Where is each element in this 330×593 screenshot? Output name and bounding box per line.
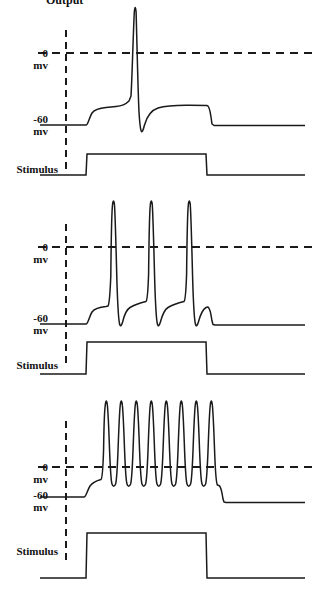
panel-3-plot bbox=[0, 393, 330, 593]
label-zero-mv: 0 mv bbox=[2, 241, 48, 265]
label-stimulus: Stimulus bbox=[0, 545, 58, 557]
label-zero-mv: 0 mv bbox=[2, 461, 48, 485]
stimulus-trace bbox=[40, 154, 305, 175]
label-minus-sixty-mv: -60 mv bbox=[2, 312, 48, 336]
stimulus-trace bbox=[40, 533, 305, 578]
membrane-potential-trace bbox=[40, 401, 305, 503]
panel-moderate-stimulus: 0 mv -60 mv Stimulus bbox=[0, 196, 330, 393]
stimulus-trace bbox=[40, 342, 305, 374]
membrane-potential-trace bbox=[40, 201, 305, 326]
label-zero-mv: 0 mv bbox=[2, 47, 48, 71]
label-stimulus: Stimulus bbox=[0, 163, 58, 175]
neuron-firing-figure: Output 0 mv -60 mv Stimulus 0 mv -60 mv … bbox=[0, 0, 330, 593]
membrane-potential-trace bbox=[40, 8, 305, 132]
label-minus-sixty-mv: -60 mv bbox=[2, 489, 48, 513]
panel-strong-stimulus: 0 mv -60 mv Stimulus bbox=[0, 393, 330, 593]
label-minus-sixty-mv: -60 mv bbox=[2, 113, 48, 137]
label-stimulus: Stimulus bbox=[0, 359, 58, 371]
panel-weak-stimulus: 0 mv -60 mv Stimulus bbox=[0, 0, 330, 196]
